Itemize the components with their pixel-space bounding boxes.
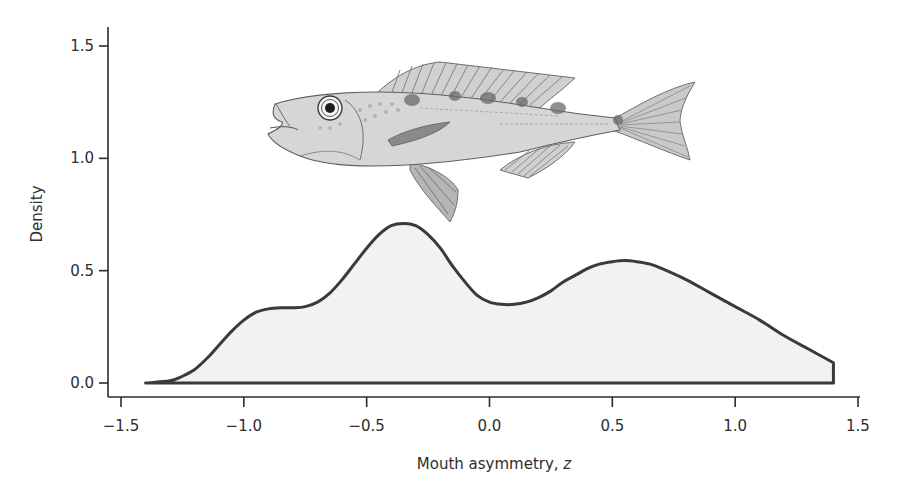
x-tick-label: 1.5: [846, 417, 870, 435]
x-axis-title: Mouth asymmetry, z: [417, 455, 573, 473]
fish-illustration: [268, 62, 695, 222]
y-axis-title: Density: [28, 185, 46, 242]
y-tick-label: 1.5: [70, 37, 94, 55]
x-tick-label: 0.5: [600, 417, 624, 435]
x-tick-label: −1.5: [103, 417, 139, 435]
x-axis-title-variable: z: [562, 455, 572, 473]
x-tick-label: 1.0: [723, 417, 747, 435]
x-ticks: −1.5−1.0−0.50.00.51.01.5: [103, 397, 870, 435]
x-tick-label: 0.0: [478, 417, 502, 435]
density-area: [146, 223, 834, 383]
x-tick-label: −0.5: [348, 417, 384, 435]
x-tick-label: −1.0: [226, 417, 262, 435]
y-tick-label: 0.0: [70, 374, 94, 392]
y-tick-label: 1.0: [70, 149, 94, 167]
y-ticks: 0.00.51.01.5: [70, 37, 108, 392]
density-chart: 0.00.51.01.5 −1.5−1.0−0.50.00.51.01.5 De…: [0, 0, 899, 496]
x-axis-title-text: Mouth asymmetry,: [417, 455, 564, 473]
y-tick-label: 0.5: [70, 262, 94, 280]
